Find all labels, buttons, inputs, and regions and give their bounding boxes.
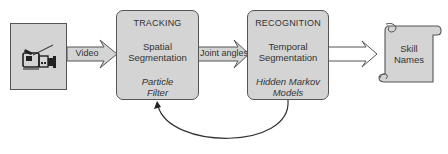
recognition-box: RECOGNITION Temporal Segmentation Hidden…: [247, 10, 329, 100]
recognition-method-2: Models: [248, 87, 328, 98]
recognition-subtitle-1: Temporal: [248, 41, 328, 52]
output-label-1: Skill: [385, 43, 433, 54]
output-label-2: Names: [385, 54, 433, 65]
connectors: [0, 0, 448, 154]
recognition-title: RECOGNITION: [248, 18, 328, 28]
output-arrow: [328, 41, 377, 67]
recognition-method-1: Hidden Markov: [248, 76, 328, 87]
tracking-box: TRACKING Spatial Segmentation Particle F…: [116, 10, 199, 100]
tracking-subtitle-1: Spatial: [117, 41, 198, 52]
edge-label-joint-angles: Joint angles: [198, 48, 250, 58]
tracking-method-1: Particle: [117, 76, 198, 87]
tracking-method-2: Filter: [117, 87, 198, 98]
tracking-subtitle-2: Segmentation: [117, 52, 198, 63]
feedback-arrow: [158, 100, 288, 138]
recognition-subtitle-2: Segmentation: [248, 52, 328, 63]
edge-label-video: Video: [72, 48, 102, 58]
tracking-title: TRACKING: [117, 18, 198, 28]
